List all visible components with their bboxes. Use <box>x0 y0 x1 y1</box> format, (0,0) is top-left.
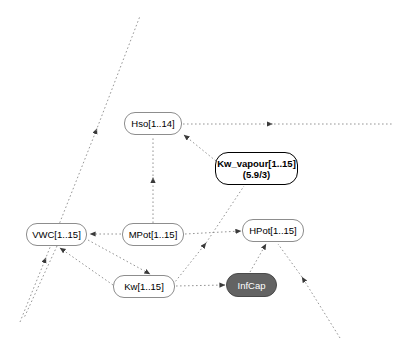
edge-kw-to-vwc <box>60 248 113 285</box>
node-mpot[interactable]: MPot[1..15] <box>122 223 184 246</box>
edge-lowerright-to-hpot-tail <box>278 244 302 277</box>
edge-lowerleft-to-upperright-lower <box>20 260 45 322</box>
node-hpot-label: HPot[1..15] <box>249 225 297 236</box>
edge-kw-to-infcap <box>176 285 225 286</box>
node-kw[interactable]: Kw[1..15] <box>113 275 175 298</box>
node-hso-label: Hso[1..14] <box>131 118 174 129</box>
node-kw-vapour-label-line1: Kw_vapour[1..15] <box>217 158 296 169</box>
node-vwc[interactable]: VWC[1..15] <box>26 223 87 246</box>
edge-lowerright-to-hpot <box>302 277 340 338</box>
edge-layer <box>0 0 393 346</box>
edge-vwc-to-lowerleft <box>24 246 57 318</box>
edge-kwvapour-to-hso <box>184 135 216 161</box>
node-kw-vapour[interactable]: Kw_vapour[1..15] (5.9/3) <box>215 152 298 185</box>
node-mpot-label: MPot[1..15] <box>129 229 178 240</box>
diagram-canvas: Hso[1..14] Kw_vapour[1..15] (5.9/3) VWC[… <box>0 0 393 346</box>
node-hpot[interactable]: HPot[1..15] <box>242 219 304 242</box>
node-infcap[interactable]: InfCap <box>226 273 277 297</box>
node-kw-label: Kw[1..15] <box>124 281 164 292</box>
node-kw-vapour-label-line2: (5.9/3) <box>243 169 270 180</box>
node-vwc-label: VWC[1..15] <box>32 229 81 240</box>
edge-infcap-to-hpot <box>250 244 266 272</box>
node-infcap-label: InfCap <box>238 280 266 291</box>
node-hso[interactable]: Hso[1..14] <box>124 112 182 135</box>
edge-kw-to-kwvapour-tail <box>206 186 244 243</box>
